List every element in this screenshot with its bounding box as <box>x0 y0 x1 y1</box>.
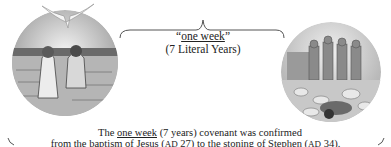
era-label: AD <box>165 139 178 147</box>
caption-text: The <box>98 127 117 138</box>
week-label: “one week” <box>150 30 256 43</box>
era-label: AD <box>308 139 321 147</box>
caption-text: from the baptism of Jesus ( <box>51 138 165 147</box>
caption-text: 34). <box>321 138 340 147</box>
caption-text: 27) to the stoning of Stephen ( <box>178 138 308 147</box>
week-term: one week <box>181 30 225 42</box>
caption-term: one week <box>117 127 157 138</box>
quote-close: ” <box>225 30 230 42</box>
caption-text: (7 years) covenant was confirmed <box>157 127 302 138</box>
caption-line-2: from the baptism of Jesus (AD 27) to the… <box>0 138 391 147</box>
week-subtitle: (7 Literal Years) <box>140 43 266 56</box>
week-span-bracket <box>0 0 391 147</box>
